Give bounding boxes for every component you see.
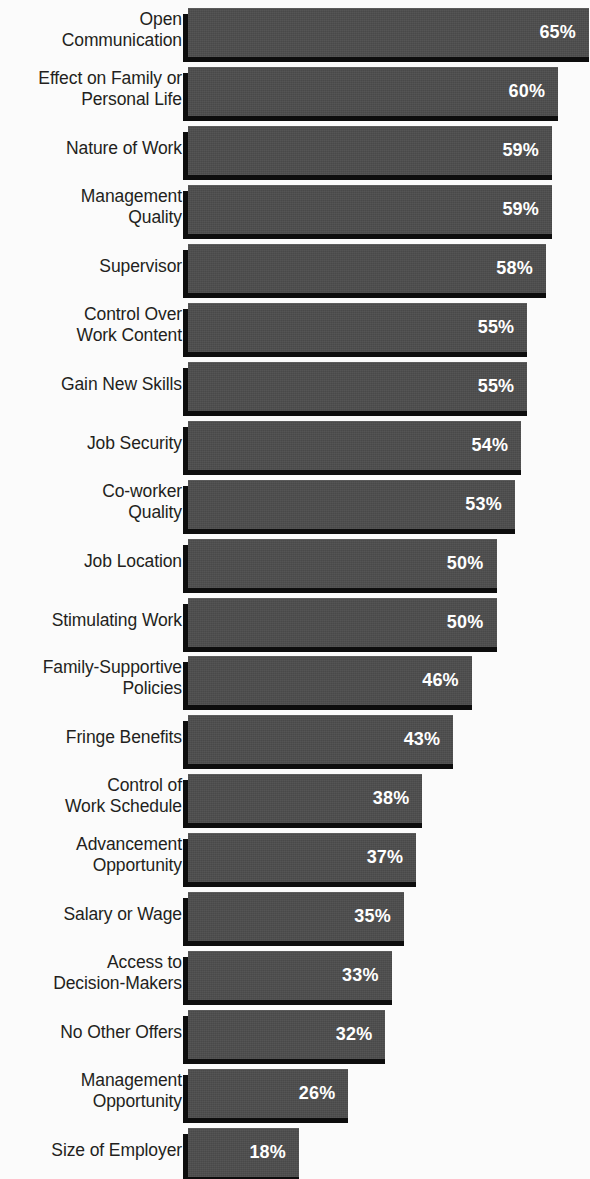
bar-row: Size of Employer18% xyxy=(0,1124,590,1179)
bar-row: Management Opportunity26% xyxy=(0,1065,590,1124)
bar-row: Stimulating Work50% xyxy=(0,594,590,653)
bar-value-label: 53% xyxy=(465,480,502,528)
bar-row: Co-worker Quality53% xyxy=(0,476,590,535)
bar: 35% xyxy=(183,892,404,946)
bar: 58% xyxy=(183,244,546,298)
category-label: Access to Decision-Makers xyxy=(2,952,182,994)
category-label: Family-Supportive Policies xyxy=(2,657,182,699)
bar-value-label: 59% xyxy=(502,185,539,233)
bar: 43% xyxy=(183,715,453,769)
bar-row: Fringe Benefits43% xyxy=(0,711,590,770)
bar: 59% xyxy=(183,185,552,239)
bar: 37% xyxy=(183,833,416,887)
category-label: Size of Employer xyxy=(2,1140,182,1161)
category-label: Fringe Benefits xyxy=(2,727,182,748)
category-label: Gain New Skills xyxy=(2,374,182,395)
bar-value-label: 35% xyxy=(354,892,391,940)
bar: 55% xyxy=(183,362,527,416)
bar-fill xyxy=(188,67,558,116)
category-label: Stimulating Work xyxy=(2,610,182,631)
bar-row: Nature of Work59% xyxy=(0,122,590,181)
bar-fill xyxy=(188,303,527,352)
bar: 60% xyxy=(183,67,558,121)
bar-value-label: 55% xyxy=(478,303,515,351)
category-label: Effect on Family or Personal Life xyxy=(2,68,182,110)
category-label: Advancement Opportunity xyxy=(2,834,182,876)
category-label: Salary or Wage xyxy=(2,904,182,925)
bar-row: Management Quality59% xyxy=(0,181,590,240)
category-label: Control of Work Schedule xyxy=(2,775,182,817)
bar: 18% xyxy=(183,1128,299,1179)
bar-row: Open Communication65% xyxy=(0,4,590,63)
bar-row: Access to Decision-Makers33% xyxy=(0,947,590,1006)
category-label: Open Communication xyxy=(2,9,182,51)
bar-value-label: 59% xyxy=(502,126,539,174)
bar-fill xyxy=(188,8,589,57)
bar-value-label: 58% xyxy=(496,244,533,292)
bar: 26% xyxy=(183,1069,348,1123)
category-label: Co-worker Quality xyxy=(2,481,182,523)
category-label: Job Location xyxy=(2,551,182,572)
bar: 53% xyxy=(183,480,515,534)
bar-fill xyxy=(188,244,546,293)
bar-value-label: 18% xyxy=(249,1128,286,1176)
bar-fill xyxy=(188,126,552,175)
category-label: Job Security xyxy=(2,433,182,454)
bar-value-label: 55% xyxy=(478,362,515,410)
bar-row: Job Location50% xyxy=(0,535,590,594)
bar-value-label: 50% xyxy=(447,598,484,646)
bar-row: Control of Work Schedule38% xyxy=(0,770,590,829)
bar-row: Gain New Skills55% xyxy=(0,358,590,417)
category-label: No Other Offers xyxy=(2,1022,182,1043)
bar-value-label: 43% xyxy=(404,715,441,763)
bar: 46% xyxy=(183,656,472,710)
bar: 32% xyxy=(183,1010,385,1064)
category-label: Supervisor xyxy=(2,256,182,277)
bar-row: Family-Supportive Policies46% xyxy=(0,652,590,711)
category-label: Control Over Work Content xyxy=(2,304,182,346)
bar-row: Job Security54% xyxy=(0,417,590,476)
category-label: Management Opportunity xyxy=(2,1070,182,1112)
bar: 54% xyxy=(183,421,521,475)
bar: 59% xyxy=(183,126,552,180)
bar-value-label: 60% xyxy=(509,67,546,115)
horizontal-bar-chart: Open Communication65%Effect on Family or… xyxy=(0,0,590,1179)
category-label: Management Quality xyxy=(2,186,182,228)
bar-value-label: 37% xyxy=(367,833,404,881)
bar-row: No Other Offers32% xyxy=(0,1006,590,1065)
bar-value-label: 54% xyxy=(472,421,509,469)
bar-value-label: 33% xyxy=(342,951,379,999)
bar-value-label: 50% xyxy=(447,539,484,587)
bar-value-label: 38% xyxy=(373,774,410,822)
bar: 50% xyxy=(183,598,497,652)
bar-row: Advancement Opportunity37% xyxy=(0,829,590,888)
bar-value-label: 65% xyxy=(539,8,576,56)
bar: 38% xyxy=(183,774,422,828)
bar-fill xyxy=(188,185,552,234)
bar-fill xyxy=(188,362,527,411)
bar-value-label: 46% xyxy=(422,656,459,704)
category-label: Nature of Work xyxy=(2,138,182,159)
bar-value-label: 32% xyxy=(336,1010,373,1058)
bar-value-label: 26% xyxy=(299,1069,336,1117)
bar: 50% xyxy=(183,539,497,593)
bar-row: Effect on Family or Personal Life60% xyxy=(0,63,590,122)
bar-row: Salary or Wage35% xyxy=(0,888,590,947)
bar: 33% xyxy=(183,951,392,1005)
bar-row: Control Over Work Content55% xyxy=(0,299,590,358)
bar-row: Supervisor58% xyxy=(0,240,590,299)
bar: 65% xyxy=(183,8,589,62)
bar: 55% xyxy=(183,303,527,357)
